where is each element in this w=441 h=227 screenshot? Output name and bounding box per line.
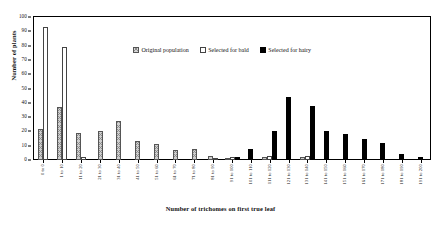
y-axis-tick-label: 40 [22, 100, 27, 105]
bar-hairy [272, 131, 277, 160]
bar-group [91, 17, 110, 160]
y-axis-tick-mark [28, 160, 31, 161]
x-axis-label-cell: 31 to 40 [109, 164, 128, 202]
x-axis-tick-label: 41 to 50 [135, 164, 140, 180]
bar-group [317, 17, 336, 160]
y-axis-tick-mark [28, 45, 31, 46]
bar-group [223, 17, 242, 160]
bar-series-container [34, 17, 430, 160]
x-axis-tick-label: 141 to 150 [324, 164, 329, 185]
x-axis-label-cell: 121 to 130 [279, 164, 298, 202]
y-axis-tick-mark [28, 102, 31, 103]
y-axis-tick-mark [28, 74, 31, 75]
bar-group [109, 17, 128, 160]
bar-hairy [380, 143, 385, 160]
bar-group [392, 17, 411, 160]
bar-hairy [362, 139, 367, 160]
bar-hairy [324, 131, 329, 160]
bar-group [411, 17, 430, 160]
bar-hairy [248, 149, 253, 160]
x-axis-label-cell: 131 to 140 [298, 164, 317, 202]
bar-group [53, 17, 72, 160]
x-axis-tick-label: 111 to 120 [267, 164, 272, 184]
y-axis-tick-label: 30 [22, 114, 27, 119]
x-axis-label-cell: 151 to 160 [336, 164, 355, 202]
x-axis-tick-label: 171 to 180 [381, 164, 386, 185]
bar-group [204, 17, 223, 160]
bar-orig [154, 144, 159, 160]
bar-group [260, 17, 279, 160]
x-axis-tick-label: 21 to 30 [98, 164, 103, 180]
x-axis-label-cell: 81 to 90 [204, 164, 223, 202]
legend-swatch-bald [200, 47, 206, 53]
x-axis-label-cell: 161 to 170 [355, 164, 374, 202]
bar-group [336, 17, 355, 160]
legend-label: Original population [142, 47, 189, 53]
bar-bald [43, 27, 48, 160]
bar-hairy [310, 106, 315, 160]
bar-group [72, 17, 91, 160]
bar-orig [116, 121, 121, 160]
bar-group [279, 17, 298, 160]
x-axis-tick-label: 151 to 160 [343, 164, 348, 185]
bar-group [185, 17, 204, 160]
x-axis-tick-label: 121 to 130 [286, 164, 291, 185]
bar-orig [76, 133, 81, 160]
x-axis-tick-label: 51 to 60 [154, 164, 159, 180]
y-axis-tick-label: 100 [19, 14, 27, 19]
bar-orig [173, 150, 178, 160]
x-axis-title: Number of trichomes on first true leaf [0, 205, 441, 212]
y-axis-tick-label: 70 [22, 57, 27, 62]
chart-legend: Original populationSelected for baldSele… [133, 47, 311, 53]
x-axis-label-cell: 41 to 50 [128, 164, 147, 202]
bar-group [128, 17, 147, 160]
y-axis-tick-mark [28, 131, 31, 132]
y-axis-tick-label: 10 [22, 143, 27, 148]
x-axis-label-cell: 191 to 200 [411, 164, 430, 202]
bar-bald [62, 47, 67, 160]
x-axis-labels: 0 to 01 to 1011 to 2021 to 3031 to 4041 … [34, 164, 430, 202]
x-axis-label-cell: 181 to 190 [392, 164, 411, 202]
y-axis-tick-label: 80 [22, 43, 27, 48]
x-axis-tick-label: 131 to 140 [305, 164, 310, 185]
y-axis-tick-mark [28, 145, 31, 146]
bar-hairy [343, 134, 348, 160]
x-axis-tick-label: 71 to 80 [192, 164, 197, 180]
x-axis-label-cell: 101 to 110 [241, 164, 260, 202]
bar-orig [98, 131, 103, 160]
y-axis-tick-mark [28, 59, 31, 60]
x-axis-tick-label: 11 to 20 [79, 164, 84, 180]
y-axis-tick-label: 0 [24, 157, 27, 162]
bar-group [147, 17, 166, 160]
bar-group [298, 17, 317, 160]
y-axis-tick-mark [28, 31, 31, 32]
x-axis-tick-label: 101 to 110 [249, 164, 254, 184]
x-axis-tick-label: 191 to 200 [418, 164, 423, 185]
x-axis-tick-label: 0 to 0 [41, 164, 46, 175]
bar-group [34, 17, 53, 160]
legend-label: Selected for hairy [268, 47, 311, 53]
legend-label: Selected for bald [208, 47, 249, 53]
y-axis-tick-mark [28, 17, 31, 18]
bar-group [373, 17, 392, 160]
y-axis-tick-label: 50 [22, 86, 27, 91]
x-axis-label-cell: 71 to 80 [185, 164, 204, 202]
legend-swatch-hairy [260, 47, 266, 53]
bar-orig [192, 149, 197, 160]
x-axis-tick-label: 31 to 40 [117, 164, 122, 180]
x-axis-label-cell: 111 to 120 [260, 164, 279, 202]
x-axis-label-cell: 91 to 100 [223, 164, 242, 202]
y-axis-tick-label: 20 [22, 129, 27, 134]
x-axis-tick-label: 91 to 100 [230, 164, 235, 182]
legend-swatch-orig [133, 47, 139, 53]
x-axis-tick-label: 161 to 170 [362, 164, 367, 185]
bar-group [166, 17, 185, 160]
x-axis-label-cell: 51 to 60 [147, 164, 166, 202]
x-axis-tick-label: 81 to 90 [211, 164, 216, 180]
y-axis-tick-label: 90 [22, 29, 27, 34]
chart-figure: Number of plants 0102030405060708090100 … [0, 0, 441, 227]
legend-item: Selected for bald [200, 47, 249, 53]
y-axis-labels: 0102030405060708090100 [0, 10, 31, 166]
x-axis-label-cell: 21 to 30 [91, 164, 110, 202]
x-axis-tick-label: 61 to 70 [173, 164, 178, 180]
